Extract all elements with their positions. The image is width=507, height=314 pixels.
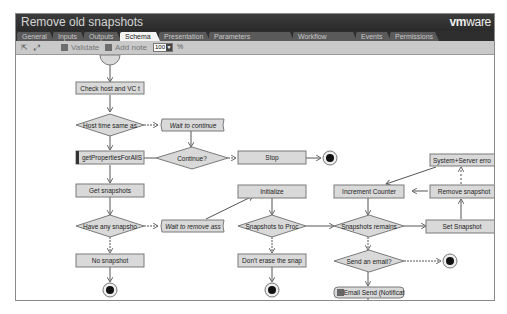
node-label: Set Snapshot — [442, 223, 481, 231]
zoom-unit: % — [177, 43, 183, 50]
tab-label: Permissions — [395, 33, 433, 40]
end-node-stop[interactable] — [323, 151, 337, 165]
tab-label: Outputs — [89, 33, 114, 40]
task-dont-erase[interactable]: Don't erase the snap — [238, 254, 306, 267]
wait-remove-node[interactable]: Wait to remove ass — [161, 220, 224, 232]
node-label: No snapshot — [92, 257, 129, 265]
zoom-icon[interactable]: ⤢ — [34, 43, 40, 53]
tab-label: Inputs — [58, 33, 77, 40]
task-no-snapshot[interactable]: No snapshot — [76, 254, 144, 267]
brand-rest: ware — [466, 15, 491, 29]
tab-bar: General Inputs Outputs Schema Presentati… — [16, 31, 494, 41]
node-label: Snapshots to Proc — [245, 223, 299, 231]
add-note-button[interactable]: Add note — [105, 43, 147, 52]
schema-toolbar: ⇱ ⤢ Validate Add note 100▼ % — [16, 41, 494, 55]
tab-parameters-references[interactable]: Parameters References — [209, 32, 290, 41]
workflow-editor-window: Remove old snapshots vmware General Inpu… — [15, 13, 495, 301]
zoom-level-select[interactable]: 100▼ — [153, 43, 173, 52]
node-label: Remove snapshot — [438, 188, 491, 196]
node-label: Get snapshots — [89, 187, 132, 195]
tab-inputs[interactable]: Inputs — [53, 32, 81, 41]
node-label: Initialize — [260, 188, 284, 195]
node-label: getPropertiesForAllS — [82, 154, 143, 162]
node-label: Increment Counter — [342, 188, 397, 195]
add-note-label: Add note — [115, 43, 147, 52]
task-system-server-error[interactable]: System+Server erro — [430, 154, 495, 166]
title-bar: Remove old snapshots vmware — [16, 14, 494, 31]
tab-schema[interactable]: Schema — [120, 32, 156, 41]
brand-bold: vm — [449, 15, 466, 29]
node-label: Snapshots remains — [341, 223, 397, 231]
task-stop[interactable]: Stop — [238, 151, 306, 164]
node-label: Have any snapsho — [83, 223, 137, 231]
node-label: Wait to continue — [170, 122, 217, 129]
wait-continue-node[interactable]: Wait to continue — [161, 119, 224, 131]
end-node-no-snapshot[interactable] — [103, 283, 117, 297]
node-label: Host time same as — [83, 122, 138, 129]
task-get-snapshots[interactable]: Get snapshots — [76, 184, 144, 197]
node-label: Stop — [265, 154, 279, 162]
end-node-dont-erase[interactable] — [265, 283, 279, 297]
decision-host-time[interactable]: Host time same as — [76, 114, 144, 136]
node-label: System+Server erro — [433, 157, 491, 165]
tab-permissions[interactable]: Permissions — [390, 32, 435, 41]
tab-outputs[interactable]: Outputs — [84, 32, 117, 41]
start-node[interactable] — [100, 55, 120, 65]
vmware-logo: vmware — [449, 15, 491, 29]
decision-snapshots-remains[interactable]: Snapshots remains — [334, 215, 404, 237]
tab-label: Events — [361, 33, 382, 40]
node-label: Email Send (Notificat — [344, 289, 405, 297]
task-remove-snapshot[interactable]: Remove snapshot — [430, 185, 495, 198]
validate-icon — [61, 44, 68, 51]
node-label: Check host and VC t — [80, 85, 140, 92]
task-email-send[interactable]: Email Send (Notificat — [334, 287, 405, 298]
task-set-snapshot[interactable]: Set Snapshot — [426, 220, 495, 233]
tab-workflow-tokens[interactable]: Workflow Tokens — [293, 32, 353, 41]
tab-label: Schema — [125, 33, 151, 40]
decision-have-any-snapshot[interactable]: Have any snapsho — [76, 215, 144, 237]
window-title: Remove old snapshots — [21, 15, 143, 29]
end-node-send-email[interactable] — [443, 254, 457, 268]
zoom-value: 100 — [155, 44, 165, 50]
task-increment-counter[interactable]: Increment Counter — [334, 185, 404, 198]
tab-general[interactable]: General — [17, 32, 50, 41]
fit-icon[interactable]: ⇱ — [21, 43, 28, 52]
tab-events[interactable]: Events — [356, 32, 387, 41]
node-label: Continue? — [177, 155, 207, 162]
decision-send-email[interactable]: Send an email? — [334, 250, 404, 272]
note-icon — [105, 44, 112, 51]
task-check-host[interactable]: Check host and VC t — [76, 82, 144, 94]
node-label: Wait to remove ass — [165, 223, 221, 230]
schema-canvas[interactable]: Check host and VC t getPropertiesForAllS… — [16, 55, 494, 301]
task-initialize[interactable]: Initialize — [238, 185, 306, 198]
node-label: Send an email? — [346, 258, 392, 265]
task-get-properties[interactable]: getPropertiesForAllS — [76, 151, 144, 164]
tab-label: Presentation — [164, 33, 203, 40]
node-label: Don't erase the snap — [242, 257, 302, 265]
validate-button[interactable]: Validate — [61, 43, 99, 52]
decision-snapshots-to-proc[interactable]: Snapshots to Proc — [238, 215, 306, 237]
tab-label: General — [22, 33, 47, 40]
decision-continue[interactable]: Continue? — [156, 147, 228, 169]
tab-presentation[interactable]: Presentation — [159, 32, 206, 41]
validate-label: Validate — [71, 43, 99, 52]
chevron-down-icon: ▼ — [166, 44, 172, 51]
